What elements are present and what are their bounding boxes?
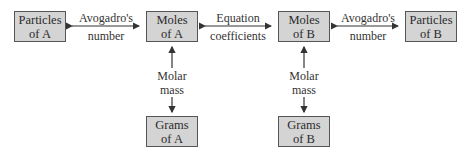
grams-a-box: Grams of A	[146, 116, 198, 147]
moles-b-box: Moles of B	[278, 11, 330, 42]
box-line: Particles	[18, 13, 61, 27]
equation-label: Equation coefficients	[203, 11, 273, 43]
label-line: Equation	[203, 11, 273, 25]
particles-b-box: Particles of B	[405, 11, 457, 42]
label-line: mass	[279, 83, 329, 97]
particles-a-box: Particles of A	[14, 11, 66, 42]
box-line: of B	[293, 132, 315, 146]
box-line: Grams	[155, 118, 188, 132]
avogadro-right-label: Avogadro's number	[336, 11, 400, 43]
avogadro-left-label: Avogadro's number	[72, 11, 140, 43]
label-line: number	[72, 29, 140, 43]
box-line: of A	[161, 27, 183, 41]
box-line: Particles	[409, 13, 452, 27]
label-line: Avogadro's	[72, 11, 140, 25]
box-line: Moles	[156, 13, 187, 27]
label-line: Molar	[147, 69, 197, 83]
box-line: of B	[293, 27, 315, 41]
label-line: number	[336, 29, 400, 43]
grams-b-box: Grams of B	[278, 116, 330, 147]
box-line: Grams	[287, 118, 320, 132]
box-line: of A	[29, 27, 51, 41]
label-line: Molar	[279, 69, 329, 83]
box-line: of B	[420, 27, 442, 41]
molar-mass-b-label: Molar mass	[279, 69, 329, 97]
moles-a-box: Moles of A	[146, 11, 198, 42]
label-line: mass	[147, 83, 197, 97]
label-line: Avogadro's	[336, 11, 400, 25]
box-line: Moles	[288, 13, 319, 27]
box-line: of A	[161, 132, 183, 146]
molar-mass-a-label: Molar mass	[147, 69, 197, 97]
label-line: coefficients	[203, 29, 273, 43]
